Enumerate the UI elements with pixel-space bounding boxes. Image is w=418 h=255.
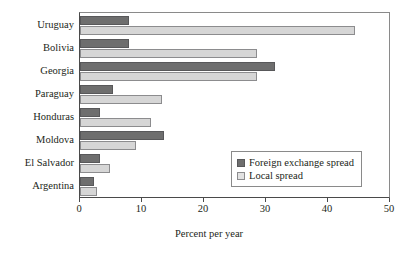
bar-chart: UruguayBoliviaGeorgiaParaguayHondurasMol… [0,0,418,255]
chart-legend: Foreign exchange spread Local spread [231,151,362,187]
bar-fx [80,154,100,163]
legend-item-foreign-exchange-spread: Foreign exchange spread [237,156,354,169]
x-axis-tick-label: 10 [136,203,147,215]
y-axis-label: Paraguay [0,88,74,99]
bar-local [80,26,355,35]
legend-swatch-icon-foreign-exchange-spread [237,159,245,167]
bar-fx [80,16,129,25]
x-axis-tick-label: 20 [198,203,209,215]
x-axis-tick-mark [141,198,142,202]
x-axis-tick-label: 30 [260,203,271,215]
bar-local [80,187,97,196]
bar-fx [80,177,94,186]
bar-group [80,84,390,107]
x-axis-ticks: 01020304050 [0,198,418,218]
legend-swatch-icon-local-spread [237,172,245,180]
bar-group [80,38,390,61]
bar-group [80,130,390,153]
legend-label-local-spread: Local spread [249,170,303,182]
bar-group [80,15,390,38]
y-axis-label: Uruguay [0,19,74,30]
y-axis-label: Honduras [0,111,74,122]
x-axis-tick-label: 0 [76,203,81,215]
bar-local [80,72,257,81]
y-axis-category-labels: UruguayBoliviaGeorgiaParaguayHondurasMol… [0,13,74,197]
bar-local [80,49,257,58]
bar-fx [80,85,113,94]
bar-local [80,118,151,127]
x-axis-tick-mark [389,198,390,202]
bar-local [80,95,162,104]
x-axis-tick-label: 50 [384,203,395,215]
y-axis-label: El Salvador [0,157,74,168]
y-axis-label: Argentina [0,180,74,191]
bar-fx [80,39,129,48]
bar-group [80,107,390,130]
y-axis-label: Moldova [0,134,74,145]
x-axis-tick-mark [265,198,266,202]
x-axis-tick-label: 40 [322,203,333,215]
bar-local [80,164,110,173]
y-axis-label: Bolivia [0,42,74,53]
y-axis-label: Georgia [0,65,74,76]
bar-fx [80,62,275,71]
bar-local [80,141,136,150]
x-axis-title: Percent per year [0,228,418,240]
x-axis-tick-mark [79,198,80,202]
legend-label-foreign-exchange-spread: Foreign exchange spread [249,157,354,169]
bar-fx [80,108,100,117]
x-axis-tick-mark [203,198,204,202]
bar-group [80,61,390,84]
x-axis-tick-mark [327,198,328,202]
legend-item-local-spread: Local spread [237,169,354,182]
bar-fx [80,131,164,140]
